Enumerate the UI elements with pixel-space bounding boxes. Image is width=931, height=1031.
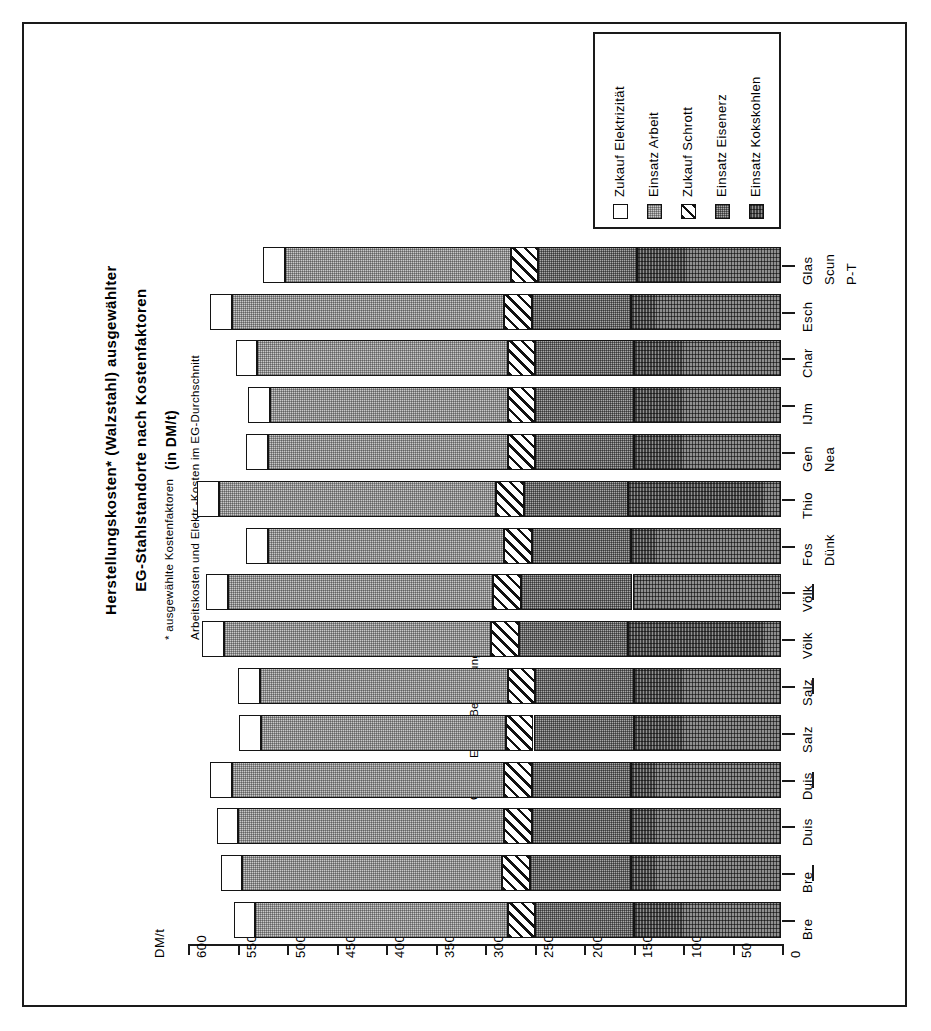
bar-segment-erz	[532, 294, 631, 330]
bar-segment-elek	[238, 668, 260, 704]
bar-segment-schrott	[504, 294, 532, 330]
bar-segment-arbeit	[242, 855, 501, 891]
category-label-4: Salz	[800, 726, 815, 753]
category-label-8: Fos	[800, 543, 815, 566]
bar-segment-erz	[530, 855, 631, 891]
bar-segment-schrott	[508, 668, 536, 704]
bar-segment-elek	[263, 247, 285, 283]
bar-segment-koks	[637, 247, 781, 283]
bar-segment-koks	[634, 340, 781, 376]
bar-segment-elek	[210, 294, 232, 330]
category-tick	[782, 639, 795, 641]
bar-segment-koks	[631, 808, 781, 844]
axis-tick	[188, 944, 190, 955]
bar-segment-arbeit	[260, 668, 508, 704]
bar-segment-elek	[206, 574, 228, 610]
category-tick	[782, 733, 795, 735]
category-label-6: Völk	[800, 632, 815, 659]
category-label-line1: Salz	[800, 726, 815, 753]
axis-tick	[386, 944, 388, 955]
bar-segment-schrott	[491, 621, 519, 657]
category-label-2: Duis	[800, 819, 815, 847]
axis-tick	[584, 944, 586, 955]
category-label-line1: Völk	[800, 632, 815, 659]
category-label-line1: Esch	[800, 301, 815, 332]
bar-segment-elek	[246, 434, 268, 470]
axis-tick-label: 200	[590, 935, 605, 958]
bar-segment-elek	[246, 528, 268, 564]
bar-segment-elek	[239, 715, 261, 751]
axis-tick-label: 500	[293, 935, 308, 958]
bar-segment-arbeit	[228, 574, 493, 610]
bar-segment-koks	[631, 855, 781, 891]
axis-tick-label: 50	[739, 943, 754, 958]
bar-segment-erz	[532, 762, 631, 798]
bar-segment-elek	[210, 762, 232, 798]
bar-segment-arbeit	[238, 808, 503, 844]
bar-segment-erz	[521, 574, 633, 610]
bar-segment-elek	[217, 808, 239, 844]
category-label-line1: Bre	[800, 919, 815, 940]
category-label-line2: Dünk	[822, 534, 837, 566]
bar-segment-elek	[236, 340, 258, 376]
bar-segment-arbeit	[255, 902, 507, 938]
bar-segment-erz	[532, 528, 631, 564]
axis-tick-label: 600	[194, 935, 209, 958]
category-label-line1: Duis	[800, 819, 815, 847]
bar-segment-elek	[221, 855, 243, 891]
bar-segment-erz	[535, 434, 634, 470]
bar-segment-schrott	[508, 387, 536, 423]
bar-segment-erz	[519, 621, 628, 657]
category-label-9: Thio	[800, 492, 815, 519]
bar-segment-koks	[634, 715, 781, 751]
category-tick	[782, 592, 795, 594]
bar-segment-koks	[634, 434, 781, 470]
category-tick	[782, 405, 795, 407]
category-label-line1: Gen	[800, 446, 815, 472]
axis-tick	[436, 944, 438, 955]
axis-tick-label: 300	[491, 935, 506, 958]
axis-tick-label: 150	[640, 935, 655, 958]
bar-segment-koks	[633, 574, 782, 610]
category-label-line1: Thio	[800, 492, 815, 519]
bar-segment-schrott	[504, 762, 532, 798]
bar-segment-schrott	[506, 715, 534, 751]
category-tick	[782, 265, 795, 267]
bar-segment-schrott	[508, 902, 536, 938]
bar-segment-schrott	[511, 247, 539, 283]
category-label-10: Gen	[800, 446, 815, 472]
axis-tick-label: 400	[392, 935, 407, 958]
bar-segment-erz	[534, 715, 635, 751]
axis-tick	[535, 944, 537, 955]
bar-segment-koks	[634, 902, 781, 938]
category-label-line2: Nea	[822, 447, 837, 472]
category-tick	[782, 358, 795, 360]
category-dash-marker	[812, 865, 814, 881]
bar-segment-koks	[634, 668, 781, 704]
axis-tick-label: 250	[541, 935, 556, 958]
bar-segment-erz	[538, 247, 637, 283]
bar-segment-koks	[628, 621, 781, 657]
category-dash-marker	[812, 584, 814, 600]
bar-segment-arbeit	[224, 621, 491, 657]
axis-tick-label: 0	[788, 950, 803, 958]
bar-segment-erz	[535, 387, 634, 423]
axis-tick	[683, 944, 685, 955]
axis-tick	[782, 944, 784, 955]
bar-segment-elek	[202, 621, 224, 657]
category-label-line2: Scun	[822, 254, 837, 285]
bar-segment-erz	[535, 340, 634, 376]
bar-segment-arbeit	[268, 434, 508, 470]
category-label-0: Bre	[800, 919, 815, 940]
bar-segment-schrott	[504, 808, 532, 844]
axis-tick	[634, 944, 636, 955]
bar-segment-koks	[628, 481, 781, 517]
category-label-14: Glas	[800, 256, 815, 284]
category-label-line1: Fos	[800, 543, 815, 566]
axis-tick	[733, 944, 735, 955]
category-tick	[782, 920, 795, 922]
category-tick	[782, 546, 795, 548]
category-label-11: IJm	[800, 403, 815, 425]
category-label-12: Char	[800, 349, 815, 379]
category-tick	[782, 873, 795, 875]
